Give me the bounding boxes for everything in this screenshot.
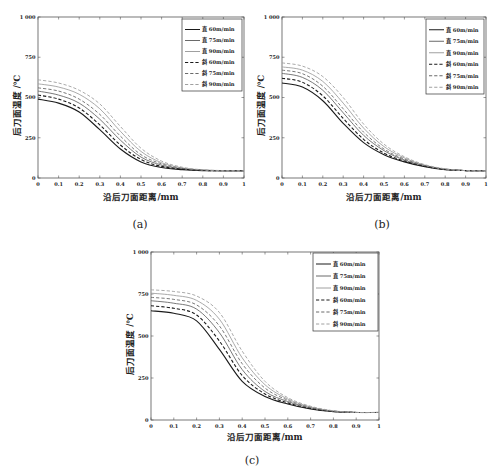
y-tick-label: 250 [25,135,36,141]
y-axis-label: 后刀面温度 /℃ [12,75,22,136]
legend-label: 斜 60m/min [445,60,479,68]
legend-label: 斜 75m/min [201,69,235,77]
x-tick-label: 0 [149,423,153,429]
x-tick-label: 0.6 [283,423,292,429]
y-tick-label: 750 [269,54,280,60]
y-tick-label: 0 [32,175,36,181]
x-tick-label: 0.5 [380,181,389,187]
y-tick-label: 750 [25,54,36,60]
x-tick-label: 0.9 [461,181,470,187]
y-axis-label: 后刀面温度 /℃ [256,75,266,136]
legend-label: 直 90m/min [333,284,366,292]
y-tick-label: 250 [269,135,280,141]
legend: 直 60m/min直 75m/min直 90m/min斜 60m/min斜 75… [313,253,378,331]
x-tick-label: 0.7 [420,181,429,187]
x-tick-label: 0.8 [198,181,207,187]
x-tick-label: 0.2 [318,181,327,187]
y-tick-label: 500 [25,94,36,100]
x-tick-label: 0.5 [137,181,146,187]
x-tick-label: 0.6 [400,181,409,187]
y-tick-label: 1 000 [20,14,36,20]
x-tick-label: 1 [484,181,487,187]
figure-caption: (c) [245,454,260,467]
y-axis-label: 后刀面温度 /℃ [125,313,135,374]
x-tick-label: 0.3 [339,181,348,187]
figure-canvas: 02505007501 00000.10.20.30.40.50.60.70.8… [0,0,497,474]
x-axis-label: 沿后刀面距离/mm [226,432,302,442]
x-tick-label: 0.3 [215,423,224,429]
chart-panel-a: 02505007501 00000.10.20.30.40.50.60.70.8… [12,14,246,231]
x-tick-label: 0 [280,181,284,187]
legend-label: 斜 60m/min [201,58,235,66]
x-tick-label: 0 [36,181,40,187]
x-tick-label: 0.5 [261,423,270,429]
legend-label: 直 75m/min [333,272,366,280]
x-tick-label: 0.4 [116,181,125,187]
legend: 直 60m/min直 75m/min直 90m/min斜 60m/min斜 75… [426,19,484,94]
y-tick-label: 0 [145,417,149,423]
legend-label: 斜 75m/min [445,72,479,80]
x-tick-label: 0.1 [298,181,307,187]
y-tick-label: 0 [276,175,280,181]
legend: 直 60m/min直 75m/min直 90m/min斜 60m/min斜 75… [182,19,242,91]
figure-caption: (a) [132,218,147,231]
y-tick-label: 750 [138,291,149,297]
legend-label: 斜 90m/min [445,83,479,91]
y-tick-label: 250 [138,375,149,381]
x-tick-label: 1 [377,423,380,429]
x-tick-label: 0.2 [192,423,201,429]
figure-caption: (b) [374,218,390,231]
chart-panel-c: 02505007501 00000.10.20.30.40.50.60.70.8… [125,249,381,467]
legend-label: 直 75m/min [202,36,235,44]
x-tick-label: 0.7 [178,181,187,187]
x-tick-label: 0.2 [75,181,84,187]
x-axis-label: 沿后刀面距离/mm [345,192,421,202]
legend-label: 直 90m/min [202,47,235,55]
x-tick-label: 0.4 [238,423,247,429]
y-tick-label: 500 [269,94,280,100]
y-tick-label: 1 000 [133,249,149,255]
x-tick-label: 0.6 [157,181,166,187]
legend-label: 斜 90m/min [201,80,235,88]
x-tick-label: 0.1 [54,181,63,187]
x-tick-label: 0.7 [306,423,315,429]
x-tick-label: 0.9 [219,181,228,187]
x-tick-label: 0.9 [352,423,361,429]
legend-label: 直 90m/min [446,49,479,57]
legend-label: 斜 90m/min [332,320,366,328]
x-tick-label: 0.8 [441,181,450,187]
x-tick-label: 1 [242,181,245,187]
figure: 02505007501 00000.10.20.30.40.50.60.70.8… [0,0,497,474]
y-tick-label: 1 000 [264,14,280,20]
x-tick-label: 0.4 [359,181,368,187]
legend-label: 直 60m/min [333,260,366,268]
x-axis-label: 沿后刀面距离/mm [102,192,178,202]
legend-label: 斜 60m/min [332,296,366,304]
legend-label: 直 60m/min [446,26,479,34]
x-tick-label: 0.8 [329,423,338,429]
legend-label: 斜 75m/min [332,308,366,316]
legend-label: 直 60m/min [202,25,235,33]
chart-panel-b: 02505007501 00000.10.20.30.40.50.60.70.8… [256,14,488,231]
legend-label: 直 75m/min [446,37,479,45]
y-tick-label: 500 [138,333,149,339]
x-tick-label: 0.1 [169,423,178,429]
x-tick-label: 0.3 [95,181,104,187]
